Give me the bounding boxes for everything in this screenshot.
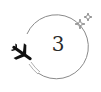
number-badge-illustration: 3 [0, 0, 101, 92]
badge-number: 3 [47, 33, 69, 55]
